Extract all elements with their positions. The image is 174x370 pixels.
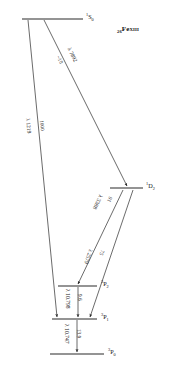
grotrian-diagram: 26FeXIII 1S0 1D2 3P2 3P1 3P0 λ 7892 ~10 … xyxy=(0,0,174,370)
transition-intensity-10798: 9.6 xyxy=(77,294,82,300)
transition-arrow-7892 xyxy=(44,20,127,186)
term-label-3P2: 3P2 xyxy=(101,280,109,290)
term-label-1S0: 1S0 xyxy=(86,13,94,23)
transition-arrow-1219 xyxy=(28,20,57,317)
term-j-3P2: 2 xyxy=(107,284,109,289)
term-j-1D2: 2 xyxy=(153,186,155,191)
term-label-3P0: 3P0 xyxy=(108,348,116,358)
term-j-3P1: 1 xyxy=(107,317,109,322)
term-label-1D2: 1D2 xyxy=(146,182,155,192)
term-j-3P0: 0 xyxy=(114,352,116,357)
transition-wavelength-10747: λ 10.747 xyxy=(63,324,69,344)
transition-arrow-3388 xyxy=(78,190,123,284)
term-label-3P1: 3P1 xyxy=(101,313,109,323)
transition-intensity-10747: 13.9 xyxy=(76,329,81,338)
transition-intensity-1219: 1000 xyxy=(39,120,45,131)
ion-species-label: 26FeXIII xyxy=(117,25,139,34)
term-j-1S0: 0 xyxy=(92,17,94,22)
transition-wavelength-10798: λ 10.798 xyxy=(64,289,70,309)
transition-wavelength-1219: λ 1219 xyxy=(24,118,31,134)
ion-spectrum-numeral: XIII xyxy=(129,27,138,32)
